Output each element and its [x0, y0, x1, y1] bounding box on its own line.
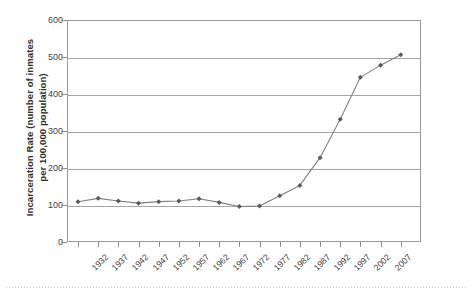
x-tick-mark: [239, 242, 240, 247]
data-point-marker: [237, 204, 242, 209]
y-tick-mark: [61, 168, 67, 169]
x-tick-label: 1977: [271, 252, 292, 273]
y-tick-label: 200: [23, 163, 63, 173]
x-tick-mark: [320, 242, 321, 247]
x-tick-label: 2007: [392, 252, 413, 273]
x-tick-mark: [381, 242, 382, 247]
data-point-marker: [277, 193, 282, 198]
incarceration-rate-line-chart: Incarceration Rate (number of inmates pe…: [0, 0, 475, 295]
x-tick-label: 1972: [251, 252, 272, 273]
y-tick-label: 500: [23, 52, 63, 62]
data-point-marker: [217, 200, 222, 205]
x-tick-label: 1962: [211, 252, 232, 273]
data-point-marker: [257, 204, 262, 209]
x-tick-mark: [98, 242, 99, 247]
y-tick-mark: [61, 131, 67, 132]
x-tick-mark: [340, 242, 341, 247]
data-point-marker: [176, 198, 181, 203]
y-tick-mark: [61, 94, 67, 95]
data-point-marker: [156, 199, 161, 204]
x-tick-label: 1992: [332, 252, 353, 273]
x-tick-label: 1937: [110, 252, 131, 273]
x-tick-mark: [199, 242, 200, 247]
x-tick-label: 1932: [90, 252, 111, 273]
y-tick-label: 400: [23, 89, 63, 99]
x-tick-mark: [78, 242, 79, 247]
data-point-marker: [76, 199, 81, 204]
x-tick-mark: [260, 242, 261, 247]
x-tick-mark: [401, 242, 402, 247]
x-tick-mark: [139, 242, 140, 247]
data-point-marker: [136, 201, 141, 206]
x-tick-label: 1987: [311, 252, 332, 273]
y-tick-label: 0: [23, 237, 63, 247]
y-tick-mark: [61, 20, 67, 21]
x-tick-mark: [360, 242, 361, 247]
x-tick-mark: [280, 242, 281, 247]
series-markers: [76, 52, 404, 209]
y-tick-mark: [61, 242, 67, 243]
x-tick-mark: [179, 242, 180, 247]
y-tick-mark: [61, 205, 67, 206]
x-tick-label: 2002: [372, 252, 393, 273]
x-tick-label: 1982: [291, 252, 312, 273]
data-point-marker: [96, 196, 101, 201]
data-point-marker: [197, 196, 202, 201]
x-tick-label: 1952: [170, 252, 191, 273]
x-tick-mark: [159, 242, 160, 247]
data-point-marker: [378, 63, 383, 68]
bottom-divider: [6, 287, 468, 288]
x-tick-label: 1942: [130, 252, 151, 273]
y-tick-mark: [61, 57, 67, 58]
data-point-marker: [398, 52, 403, 57]
data-point-marker: [338, 117, 343, 122]
x-tick-mark: [300, 242, 301, 247]
data-point-marker: [358, 75, 363, 80]
x-tick-label: 1957: [190, 252, 211, 273]
series-line: [78, 55, 401, 207]
y-tick-label: 100: [23, 200, 63, 210]
y-tick-label: 600: [23, 15, 63, 25]
y-tick-label: 300: [23, 126, 63, 136]
data-point-marker: [116, 198, 121, 203]
x-tick-label: 1947: [150, 252, 171, 273]
data-series-layer: [67, 20, 421, 242]
x-tick-label: 1997: [352, 252, 373, 273]
x-tick-label: 1967: [231, 252, 252, 273]
x-tick-mark: [118, 242, 119, 247]
x-tick-mark: [219, 242, 220, 247]
